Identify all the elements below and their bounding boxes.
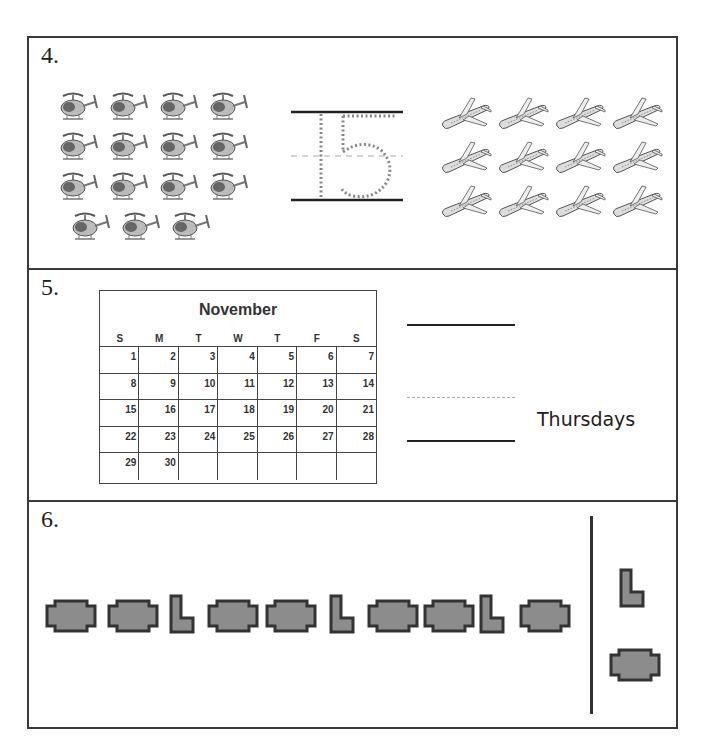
- calendar-day: [258, 453, 297, 480]
- airplane-icon: [610, 96, 664, 132]
- l-shape-icon: [329, 594, 355, 638]
- airplane-icon: [439, 184, 493, 220]
- weekday-header: M: [139, 333, 178, 344]
- calendar-day: 1: [100, 347, 139, 374]
- calendar-day: 2: [139, 347, 178, 374]
- calendar-day: 30: [139, 453, 178, 480]
- l-shape-icon: [169, 594, 195, 638]
- calendar-day: 3: [179, 347, 218, 374]
- choice-octagon-shape[interactable]: [609, 648, 661, 686]
- calendar-day: 8: [100, 374, 139, 401]
- divider-line: [590, 516, 593, 714]
- trace-number-15: [291, 108, 403, 204]
- calendar-day: 5: [258, 347, 297, 374]
- calendar-day: 14: [337, 374, 376, 401]
- calendar-day: 16: [139, 400, 178, 427]
- l-shape-icon: [479, 594, 505, 638]
- airplane-icon: [553, 96, 607, 132]
- problem-6: 6.: [29, 502, 676, 729]
- weekday-header: S: [337, 333, 376, 344]
- airplane-icon: [496, 140, 550, 176]
- problem-number: 4.: [41, 42, 59, 69]
- helicopter-icon: [57, 130, 101, 164]
- calendar-day: 21: [337, 400, 376, 427]
- octagon-shape-icon: [423, 599, 475, 637]
- helicopter-icon: [157, 130, 201, 164]
- calendar-day: 9: [139, 374, 178, 401]
- answer-mid-line: [407, 397, 515, 398]
- calendar-day: 24: [179, 427, 218, 454]
- problem-5: 5. November SMTWTFS 12345678910111213141…: [29, 270, 676, 502]
- weekday-header: S: [100, 333, 139, 344]
- choice-l-shape[interactable]: [619, 568, 645, 612]
- calendar-day: [337, 453, 376, 480]
- calendar-day: 10: [179, 374, 218, 401]
- problem-number: 5.: [41, 274, 59, 301]
- calendar-day: 17: [179, 400, 218, 427]
- octagon-shape-icon: [45, 599, 97, 637]
- calendar-day: [179, 453, 218, 480]
- answer-top-line: [407, 324, 515, 326]
- worksheet: 4. 5. November SMTWTFS 12345678910111213…: [27, 36, 678, 729]
- calendar-day: 7: [337, 347, 376, 374]
- calendar-day: 6: [297, 347, 336, 374]
- airplane-icon: [439, 96, 493, 132]
- calendar-day: 27: [297, 427, 336, 454]
- calendar-day: 15: [100, 400, 139, 427]
- octagon-shape-icon: [367, 599, 419, 637]
- calendar-day: [218, 453, 257, 480]
- calendar-day: 12: [258, 374, 297, 401]
- octagon-shape-icon: [265, 599, 317, 637]
- octagon-shape-icon: [519, 599, 571, 637]
- calendar-day: 23: [139, 427, 178, 454]
- octagon-shape-icon: [107, 599, 159, 637]
- calendar-day: 29: [100, 453, 139, 480]
- helicopter-icon: [57, 170, 101, 204]
- calendar-day: 20: [297, 400, 336, 427]
- weekday-header: F: [297, 333, 336, 344]
- helicopter-icon: [107, 130, 151, 164]
- weekday-header: T: [258, 333, 297, 344]
- helicopter-icon: [107, 170, 151, 204]
- helicopter-icon: [69, 210, 113, 244]
- problem-number: 6.: [41, 506, 59, 533]
- airplane-icon: [439, 140, 493, 176]
- calendar: November SMTWTFS 12345678910111213141516…: [99, 290, 377, 484]
- calendar-day: 13: [297, 374, 336, 401]
- airplane-icon: [553, 184, 607, 220]
- helicopter-icon: [157, 170, 201, 204]
- calendar-day: 4: [218, 347, 257, 374]
- calendar-day: 19: [258, 400, 297, 427]
- airplane-icon: [553, 140, 607, 176]
- calendar-month: November: [100, 301, 376, 319]
- helicopter-icon: [207, 170, 251, 204]
- airplane-icon: [610, 184, 664, 220]
- calendar-day: 25: [218, 427, 257, 454]
- helicopter-icon: [119, 210, 163, 244]
- calendar-days: 1234567891011121314151617181920212223242…: [100, 346, 376, 480]
- weekday-header: W: [218, 333, 257, 344]
- octagon-shape-icon: [207, 599, 259, 637]
- helicopter-icon: [157, 90, 201, 124]
- calendar-day: 22: [100, 427, 139, 454]
- calendar-day: 18: [218, 400, 257, 427]
- answer-bottom-line[interactable]: [407, 440, 515, 442]
- calendar-day: 11: [218, 374, 257, 401]
- calendar-day: 28: [337, 427, 376, 454]
- helicopter-icon: [169, 210, 213, 244]
- helicopter-icon: [207, 130, 251, 164]
- airplane-icon: [610, 140, 664, 176]
- calendar-day: [297, 453, 336, 480]
- problem-4: 4.: [29, 38, 676, 270]
- calendar-day: 26: [258, 427, 297, 454]
- airplane-icon: [496, 184, 550, 220]
- helicopter-icon: [107, 90, 151, 124]
- helicopter-icon: [207, 90, 251, 124]
- calendar-weekdays: SMTWTFS: [100, 333, 376, 344]
- helicopter-icon: [57, 90, 101, 124]
- answer-label: Thursdays: [537, 408, 635, 430]
- airplane-icon: [496, 96, 550, 132]
- weekday-header: T: [179, 333, 218, 344]
